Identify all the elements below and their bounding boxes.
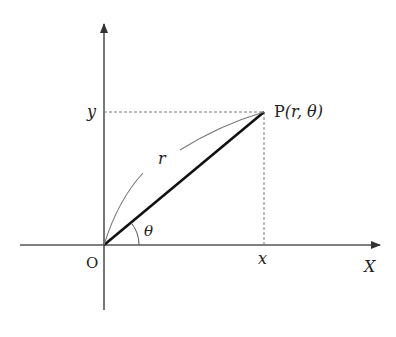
radius-segment (104, 112, 264, 245)
point-label: P(r, θ) (274, 102, 323, 121)
point-label-prefix: P (274, 102, 285, 121)
radius-label: r (158, 149, 167, 168)
angle-label: θ (144, 222, 153, 240)
x-tick-label: x (258, 249, 267, 268)
polar-coordinate-diagram: O X x y r θ P(r, θ) (0, 0, 396, 337)
origin-label: O (86, 254, 98, 272)
angle-arc (131, 223, 139, 245)
radius-arc-upper (180, 112, 264, 150)
point-label-args: (r, θ) (285, 102, 323, 121)
y-tick-label: y (86, 102, 97, 121)
x-axis-label: X (362, 257, 376, 276)
